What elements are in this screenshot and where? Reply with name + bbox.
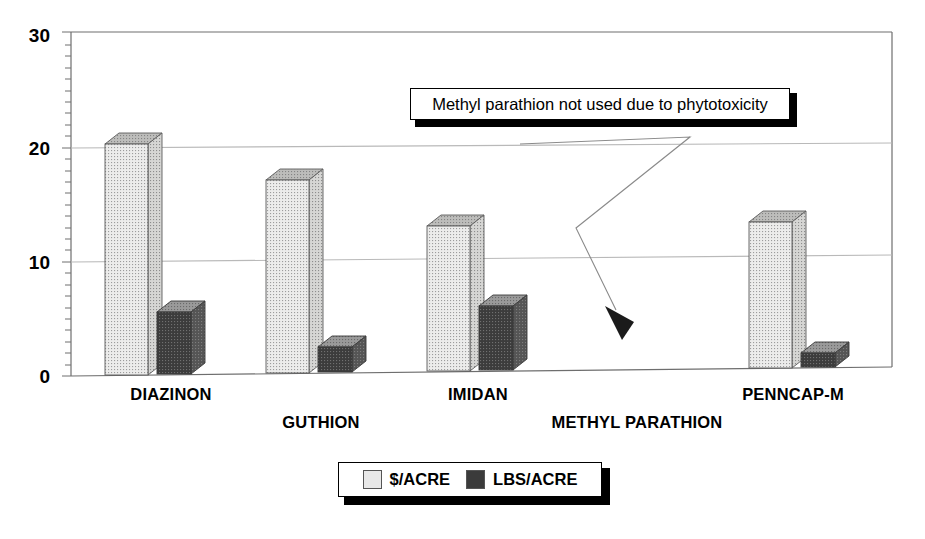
plot-area — [0, 0, 925, 539]
x-axis-label-guthion: GUTHION — [282, 413, 359, 432]
x-axis-label-methyl-parathion: METHYL PARATHION — [552, 413, 723, 432]
bar-penncap-m-dollars-per-acre — [749, 211, 806, 368]
bar-diazinon-dollars-per-acre — [105, 133, 162, 375]
bar-chart: 30 20 10 0 — [0, 0, 925, 539]
bar-imidan-dollars-per-acre — [427, 215, 484, 371]
x-axis-label-imidan: IMIDAN — [448, 385, 508, 404]
legend-box: $/ACRE LBS/ACRE — [338, 462, 602, 497]
legend-label-lbs-per-acre: LBS/ACRE — [493, 470, 577, 489]
annotation-box: Methyl parathion not used due to phytoto… — [410, 88, 790, 120]
bar-imidan-lbs-per-acre — [479, 295, 527, 370]
legend-entry-lbs-per-acre: LBS/ACRE — [466, 470, 577, 489]
bar-diazinon-lbs-per-acre — [157, 301, 205, 374]
bar-guthion-dollars-per-acre — [266, 169, 323, 373]
bar-guthion-lbs-per-acre — [318, 336, 366, 372]
annotation-text: Methyl parathion not used due to phytoto… — [432, 95, 768, 114]
dark-dotted-swatch-icon — [466, 470, 485, 489]
legend-entry-dollars-per-acre: $/ACRE — [363, 470, 451, 489]
y-axis-minor-ticks — [62, 32, 71, 376]
annotation-arrow — [520, 137, 690, 340]
x-axis-label-diazinon: DIAZINON — [130, 385, 211, 404]
light-dotted-swatch-icon — [363, 470, 382, 489]
x-axis-label-penncap-m: PENNCAP-M — [742, 385, 844, 404]
legend-label-dollars-per-acre: $/ACRE — [390, 470, 451, 489]
bar-penncap-m-lbs-per-acre — [801, 342, 849, 367]
